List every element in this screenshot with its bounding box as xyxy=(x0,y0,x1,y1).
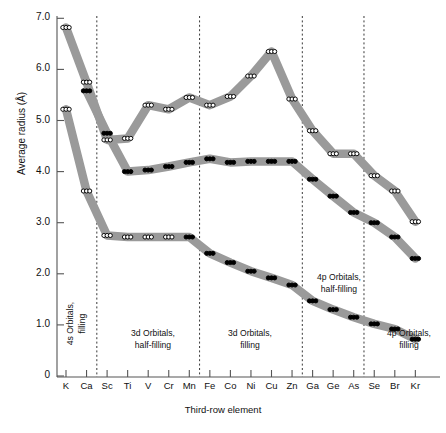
region-label-4s-filling: 4s Orbitals, filling xyxy=(65,279,88,369)
region-label-3d-filling: 3d Orbitals, filling xyxy=(205,328,295,351)
y-tick-label: 3.0 xyxy=(16,216,50,227)
y-tick-label: 6.0 xyxy=(16,62,50,73)
x-axis-title: Third-row element xyxy=(0,404,446,415)
region-dividers xyxy=(97,16,364,377)
y-tick-label: 5.0 xyxy=(16,114,50,125)
y-tick-label: 2.0 xyxy=(16,267,50,278)
chart-figure: Average radius (Å) Third-row element 01.… xyxy=(0,0,446,433)
x-tick-label: Kr xyxy=(402,380,428,391)
y-axis-ticks xyxy=(57,18,64,376)
y-tick-label: 4.0 xyxy=(16,165,50,176)
y-axis-title: Average radius (Å) xyxy=(16,64,27,204)
y-tick-label: 7.0 xyxy=(16,11,50,22)
region-label-4p-half-filling: 4p Orbitals, half-filling xyxy=(296,272,382,295)
region-label-4p-filling: 4p Orbitals, filling xyxy=(372,328,446,351)
x-axis-ticks xyxy=(66,370,415,377)
y-tick-label: 0 xyxy=(16,369,50,380)
region-label-3d-half-filling: 3d Orbitals, half-filling xyxy=(105,328,201,351)
y-tick-label: 1.0 xyxy=(16,318,50,329)
